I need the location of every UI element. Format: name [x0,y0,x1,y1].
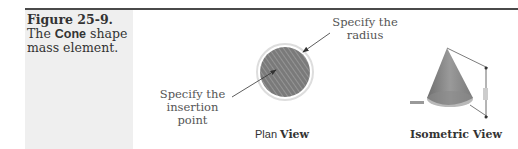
plan-view-title: Plan View [255,128,309,141]
insertion-callout: Specify the insertion point [150,88,235,127]
figure-page: Figure 25-9. The Cone shape mass element… [0,0,518,149]
illustration [0,0,518,149]
isometric-cone [410,48,488,119]
radius-leader [303,33,330,52]
plan-view-circle [257,44,313,100]
radius-callout: Specify the radius [330,16,400,42]
isometric-view-title: Isometric View [410,128,502,141]
